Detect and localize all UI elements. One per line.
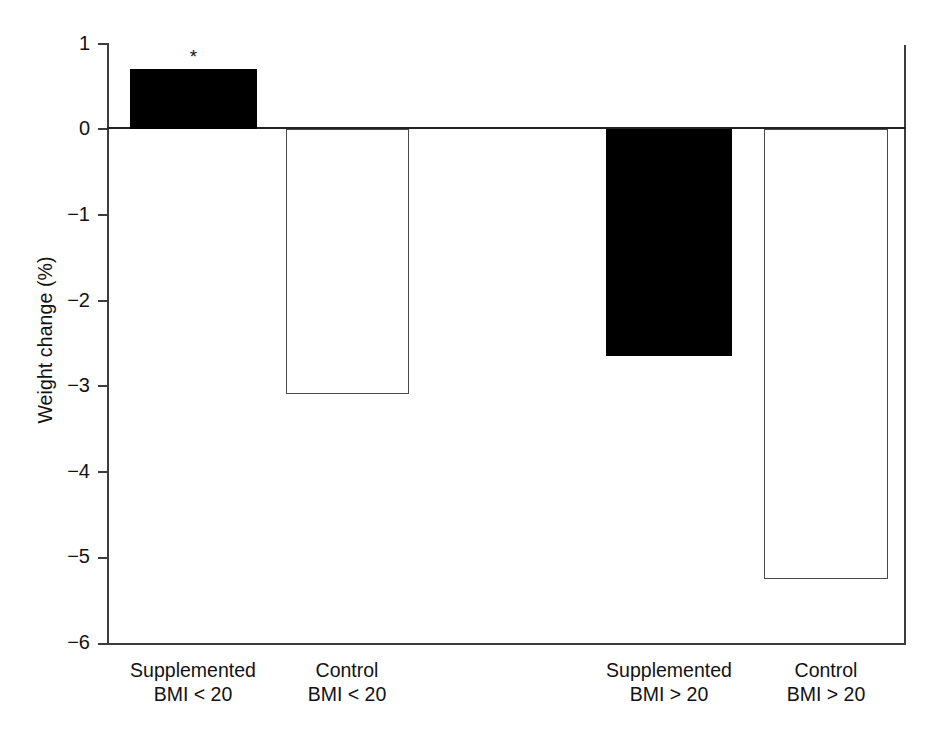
significance-marker: *: [184, 47, 204, 66]
bar-1: [130, 69, 257, 129]
y-axis-tick-labels: 1 0 −1 −2 −3 −4 −5 −6: [44, 0, 90, 736]
y-tick-mark: [98, 643, 108, 645]
y-tick-label: −3: [44, 375, 90, 395]
y-tick-label: −5: [44, 546, 90, 566]
category-label-line1: Control: [795, 659, 858, 681]
bar-2: [286, 129, 409, 395]
y-tick-mark: [98, 557, 108, 559]
y-tick-mark: [98, 214, 108, 216]
bar-chart-figure: Weight change (%) 1 0 −1 −2 −3 −4 −5 −6 …: [0, 0, 934, 736]
y-tick-mark: [98, 385, 108, 387]
bar-4: [764, 129, 888, 579]
bar-3: [606, 129, 732, 356]
y-tick-label: −4: [44, 461, 90, 481]
category-label-control-bmi-gt-20: Control BMI > 20: [721, 658, 931, 706]
category-label-line1: Control: [316, 659, 379, 681]
y-tick-mark: [98, 471, 108, 473]
category-label-line1: Supplemented: [606, 659, 732, 681]
x-axis-line: [107, 643, 906, 645]
category-label-line2: BMI < 20: [242, 682, 452, 706]
y-tick-label: −1: [44, 204, 90, 224]
category-label-line2: BMI > 20: [721, 682, 931, 706]
y-tick-mark: [98, 300, 108, 302]
y-axis-line: [107, 43, 109, 645]
y-tick-label: 0: [44, 118, 90, 138]
right-frame-line: [904, 45, 906, 645]
category-label-control-bmi-lt-20: Control BMI < 20: [242, 658, 452, 706]
y-tick-mark: [98, 43, 108, 45]
category-label-line1: Supplemented: [130, 659, 256, 681]
y-tick-label: 1: [44, 33, 90, 53]
y-tick-label: −2: [44, 290, 90, 310]
y-tick-label: −6: [44, 632, 90, 652]
plot-area: *: [107, 43, 906, 645]
